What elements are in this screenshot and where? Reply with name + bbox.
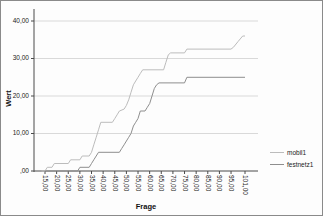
series-line-mobil1: [42, 36, 246, 171]
x-tick-label: 85,00: [205, 175, 212, 191]
x-tick-label: 80,00: [193, 175, 200, 191]
spss-line-chart: Wert Frage mobil1festnetz1 40,0030,0020,…: [0, 0, 323, 216]
x-tick-label: 75,00: [182, 175, 189, 191]
x-tick-label: 30,00: [77, 175, 84, 191]
x-tick-label: 60,00: [147, 175, 154, 191]
y-tick-label: 30,00: [3, 55, 29, 62]
x-tick-label: 90,00: [216, 175, 223, 191]
x-tick-label: 45,00: [112, 175, 119, 191]
x-tick-label: 15,00: [42, 175, 49, 191]
y-tick-label: 10,00: [3, 130, 29, 137]
x-tick-label: 50,00: [123, 175, 130, 191]
x-tick-label: 20,00: [54, 175, 61, 191]
y-tick-label: 40,00: [3, 18, 29, 25]
x-tick-label: 70,00: [170, 175, 177, 191]
y-tick-label: ,00: [3, 168, 29, 175]
x-tick-label: 35,00: [89, 175, 96, 191]
x-tick-label: 101,00: [242, 175, 249, 195]
x-tick-label: 95,00: [228, 175, 235, 191]
x-tick-label: 55,00: [135, 175, 142, 191]
x-tick-label: 25,00: [65, 175, 72, 191]
y-tick-label: 20,00: [3, 93, 29, 100]
x-tick-label: 65,00: [158, 175, 165, 191]
series-line-festnetz1: [45, 77, 245, 171]
x-tick-label: 40,00: [100, 175, 107, 191]
